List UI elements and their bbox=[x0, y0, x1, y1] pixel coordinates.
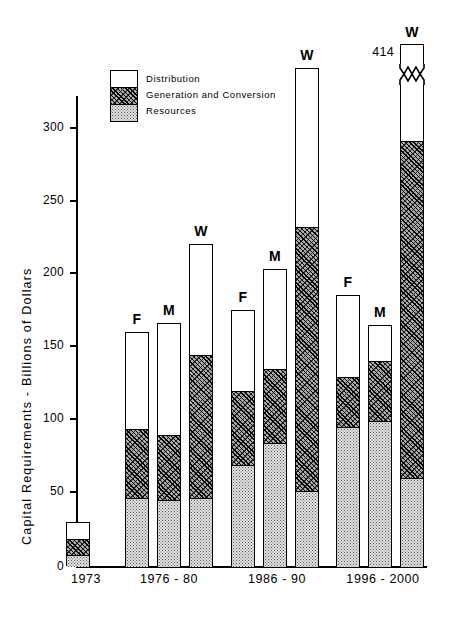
bar-segment-distribution bbox=[296, 69, 318, 227]
y-tick-label-50: 50 bbox=[30, 484, 64, 498]
bar-segment-generation bbox=[369, 361, 391, 421]
bar-segment-distribution bbox=[337, 296, 359, 376]
bar-segment-resources bbox=[126, 498, 148, 567]
y-tick-label-0: 0 bbox=[30, 559, 64, 573]
bar-segment-generation bbox=[126, 429, 148, 498]
bar-1976-80-W bbox=[189, 244, 213, 566]
bar-broken-stub bbox=[400, 44, 424, 66]
bar-segment-resources bbox=[264, 443, 286, 567]
bar-segment-distribution bbox=[190, 245, 212, 355]
bar-1986-90-F bbox=[231, 310, 255, 566]
bar-segment-distribution bbox=[126, 333, 148, 430]
y-tick-label-200: 200 bbox=[30, 265, 64, 279]
bar-tag-label: F bbox=[231, 289, 255, 305]
bar-segment-resources bbox=[158, 500, 180, 567]
bar-segment-resources bbox=[401, 478, 423, 567]
bar-segment-generation bbox=[296, 227, 318, 490]
bar-1976-80-M bbox=[157, 323, 181, 566]
x-group-label-1976-80: 1976 - 80 bbox=[124, 572, 214, 586]
bar-1996-2000-M bbox=[368, 325, 392, 566]
y-tick-100 bbox=[70, 418, 77, 420]
legend-swatch-generation bbox=[111, 88, 137, 105]
bar-tag-label: W bbox=[400, 24, 424, 40]
bar-segment-distribution bbox=[401, 84, 423, 141]
bar-1996-2000-W bbox=[400, 83, 424, 566]
y-tick-150 bbox=[70, 345, 77, 347]
y-tick-label-250: 250 bbox=[30, 193, 64, 207]
bar-segment-generation bbox=[264, 369, 286, 442]
bar-segment-resources bbox=[67, 555, 89, 567]
y-tick-200 bbox=[70, 272, 77, 274]
bar-segment-distribution bbox=[232, 311, 254, 391]
bar-tag-label: F bbox=[336, 274, 360, 290]
axis-break-upper-icon bbox=[399, 64, 425, 76]
bar-tag-label: M bbox=[157, 302, 181, 318]
capital-requirements-bar-chart: 300 250 200 150 100 50 0 Capital Require… bbox=[0, 0, 451, 638]
bar-segment-generation bbox=[232, 391, 254, 464]
x-group-label-1986-90: 1986 - 90 bbox=[232, 572, 322, 586]
x-group-label-1996-2000: 1996 - 2000 bbox=[330, 572, 436, 586]
bar-1976-80-F bbox=[125, 332, 149, 566]
y-tick-250 bbox=[70, 200, 77, 202]
legend-swatch-distribution bbox=[111, 71, 137, 88]
bar-segment-generation bbox=[190, 355, 212, 498]
legend-swatches bbox=[110, 70, 138, 122]
legend-label-distribution: Distribution bbox=[146, 73, 200, 84]
bar-segment-generation bbox=[67, 539, 89, 555]
y-tick-300 bbox=[70, 127, 77, 129]
bar-segment-generation bbox=[337, 377, 359, 427]
y-axis-line bbox=[76, 96, 78, 568]
bar-segment-resources bbox=[369, 421, 391, 567]
legend-swatch-resources bbox=[111, 105, 137, 121]
bar-tag-label: W bbox=[189, 223, 213, 239]
bar-segment-generation bbox=[158, 435, 180, 499]
y-axis-title: Capital Requirements - Billions of Dolla… bbox=[20, 267, 34, 545]
bar-segment-generation bbox=[401, 141, 423, 478]
bar-segment-resources bbox=[296, 491, 318, 567]
bar-tag-label: F bbox=[125, 311, 149, 327]
legend-label-resources: Resources bbox=[146, 105, 196, 116]
bar-segment-distribution bbox=[67, 523, 89, 539]
bar-1986-90-W bbox=[295, 68, 319, 566]
bar-tag-label: M bbox=[368, 304, 392, 320]
bar-break-value-label: 414 bbox=[354, 45, 394, 59]
bar-tag-label: W bbox=[295, 47, 319, 63]
y-tick-50 bbox=[70, 491, 77, 493]
bar-segment-distribution bbox=[264, 270, 286, 370]
bar-1996-2000-F bbox=[336, 295, 360, 566]
bar-1986-90-M bbox=[263, 269, 287, 566]
bar-segment-resources bbox=[232, 465, 254, 567]
y-tick-label-300: 300 bbox=[30, 120, 64, 134]
y-tick-label-150: 150 bbox=[30, 338, 64, 352]
bar-segment-resources bbox=[337, 427, 359, 567]
bar-tag-label: M bbox=[263, 248, 287, 264]
legend-label-generation: Generation and Conversion bbox=[146, 89, 276, 100]
bar-1973 bbox=[66, 522, 90, 566]
bar-segment-distribution bbox=[369, 326, 391, 361]
bar-segment-distribution bbox=[158, 324, 180, 435]
bar-segment-resources bbox=[190, 498, 212, 567]
y-tick-label-100: 100 bbox=[30, 411, 64, 425]
x-group-label-1973: 1973 bbox=[56, 572, 116, 586]
